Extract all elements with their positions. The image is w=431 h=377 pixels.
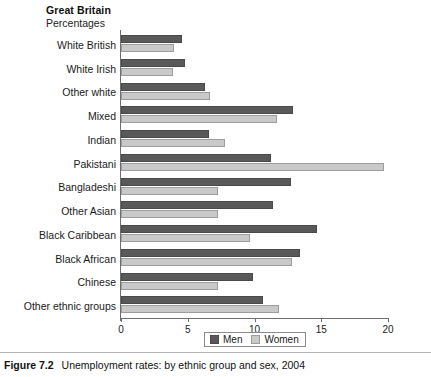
bar-women: [121, 234, 250, 242]
category-label: Black African: [55, 253, 116, 265]
bar-men: [121, 296, 263, 304]
bar-men: [121, 106, 293, 114]
bar-group: Black Caribbean: [121, 223, 388, 247]
bar-women: [121, 68, 173, 76]
bar-women: [121, 258, 292, 266]
figure-number: Figure 7.2: [4, 359, 54, 371]
bar-group: Other Asian: [121, 199, 388, 223]
bar-men: [121, 130, 209, 138]
category-label: White British: [57, 39, 116, 51]
bar-men: [121, 59, 185, 67]
category-label: Bangladeshi: [58, 181, 116, 193]
bar-group: Pakistani: [121, 152, 388, 176]
region-label: Great Britain: [46, 4, 111, 16]
legend-label-women: Women: [264, 334, 298, 345]
x-tick-label: 20: [382, 324, 393, 335]
x-tick-label: 5: [185, 324, 191, 335]
bar-women: [121, 115, 277, 123]
x-tick-mark: [188, 318, 189, 322]
legend-swatch-women-icon: [251, 335, 260, 344]
category-label: White Irish: [66, 63, 116, 75]
legend-entry-men: Men: [210, 334, 242, 345]
caption-divider: [0, 352, 431, 353]
category-label: Pakistani: [73, 158, 116, 170]
bar-women: [121, 210, 218, 218]
chart-header: Great Britain Percentages: [46, 4, 111, 29]
bar-women: [121, 305, 279, 313]
bar-group: White Irish: [121, 57, 388, 81]
bar-women: [121, 139, 225, 147]
x-tick-mark: [321, 318, 322, 322]
legend-entry-women: Women: [251, 334, 298, 345]
category-label: Indian: [87, 134, 116, 146]
bar-men: [121, 201, 273, 209]
bar-men: [121, 225, 317, 233]
x-tick-label: 0: [118, 324, 124, 335]
bar-group: Chinese: [121, 271, 388, 295]
caption-text: Unemployment rates: by ethnic group and …: [62, 359, 305, 371]
category-label: Black Caribbean: [39, 229, 116, 241]
x-tick-mark: [121, 318, 122, 322]
bar-group: Bangladeshi: [121, 176, 388, 200]
bar-men: [121, 178, 291, 186]
bar-women: [121, 187, 218, 195]
bar-women: [121, 163, 384, 171]
bar-group: White British: [121, 33, 388, 57]
category-label: Other white: [62, 86, 116, 98]
bar-women: [121, 282, 218, 290]
bar-women: [121, 44, 174, 52]
bar-group: Indian: [121, 128, 388, 152]
plot-area: 05101520 White BritishWhite IrishOther w…: [121, 33, 388, 318]
legend-swatch-men-icon: [210, 335, 219, 344]
legend-label-men: Men: [223, 334, 242, 345]
bar-group: Mixed: [121, 104, 388, 128]
bar-men: [121, 35, 182, 43]
units-label: Percentages: [46, 17, 111, 29]
figure-container: Great Britain Percentages 05101520 White…: [0, 0, 431, 377]
bar-group: Other white: [121, 81, 388, 105]
bar-men: [121, 249, 300, 257]
x-tick-mark: [255, 318, 256, 322]
bar-women: [121, 92, 210, 100]
bar-men: [121, 154, 271, 162]
bar-group: Black African: [121, 247, 388, 271]
bar-men: [121, 273, 253, 281]
x-tick-mark: [388, 318, 389, 322]
x-tick-label: 15: [316, 324, 327, 335]
figure-caption: Figure 7.2Unemployment rates: by ethnic …: [4, 359, 305, 371]
bar-men: [121, 83, 205, 91]
category-label: Chinese: [77, 276, 116, 288]
category-label: Other ethnic groups: [24, 300, 116, 312]
category-label: Other Asian: [61, 205, 116, 217]
category-label: Mixed: [88, 110, 116, 122]
bar-group: Other ethnic groups: [121, 294, 388, 318]
chart-legend: Men Women: [204, 332, 306, 347]
